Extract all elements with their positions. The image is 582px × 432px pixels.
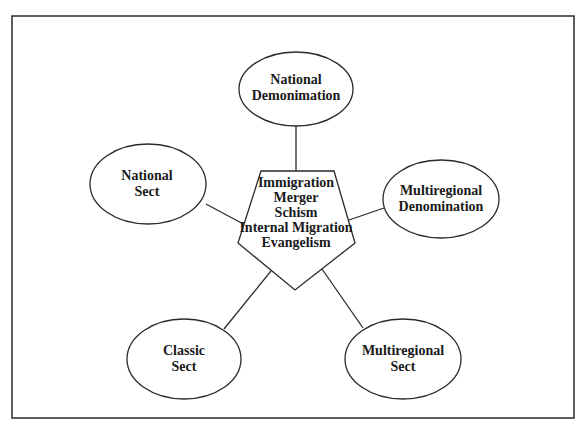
label-line: National [121, 168, 172, 184]
connector-multiregional-denomination [349, 208, 384, 220]
label-line: Denomination [399, 199, 484, 215]
center-label: Immigration Merger Schism Internal Migra… [239, 175, 352, 250]
label-line: National [252, 72, 341, 88]
center-line-evangelism: Evangelism [239, 235, 352, 250]
connector-multiregional-sect [322, 269, 363, 328]
center-line-merger: Merger [239, 190, 352, 205]
label-line: Classic [163, 343, 205, 359]
node-national-sect-label: National Sect [121, 168, 172, 200]
node-classic-sect-label: Classic Sect [163, 343, 205, 375]
label-line: Sect [163, 359, 205, 375]
label-line: Multiregional [362, 343, 444, 359]
connector-classic-sect [224, 271, 271, 329]
center-line-immigration: Immigration [239, 175, 352, 190]
center-line-internal-migration: Internal Migration [239, 220, 352, 235]
center-line-schism: Schism [239, 205, 352, 220]
label-line: Sect [362, 359, 444, 375]
diagram: Immigration Merger Schism Internal Migra… [0, 0, 582, 432]
label-line: Multiregional [399, 183, 484, 199]
node-national-denomination-label: National Demonimation [252, 72, 341, 104]
node-multiregional-sect-label: Multiregional Sect [362, 343, 444, 375]
label-line: Demonimation [252, 88, 341, 104]
node-multiregional-denomination-label: Multiregional Denomination [399, 183, 484, 215]
label-line: Sect [121, 184, 172, 200]
